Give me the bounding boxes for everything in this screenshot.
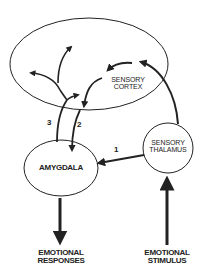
thalamus-label-line2: THALAMUS <box>145 146 191 153</box>
thalamus-label-line1: SENSORY <box>145 139 191 146</box>
pathway-1-number: 1 <box>114 146 118 154</box>
thalamus-to-cortex-arrow <box>141 62 178 124</box>
pathway-2-lower <box>72 110 80 150</box>
cortex-label-line2: CORTEX <box>106 83 150 90</box>
stimulus-label-line2: STIMULUS <box>136 257 198 265</box>
cortex-label: SENSORY CORTEX <box>106 76 150 91</box>
cortex-label-line1: SENSORY <box>106 76 150 83</box>
pathway-3-branch-left <box>31 73 60 90</box>
cortex-internal-arc-upper <box>108 63 132 70</box>
pathway-3-number: 3 <box>47 119 51 127</box>
pathway-3-branch-right <box>67 95 78 100</box>
responses-label-line2: RESPONSES <box>28 257 94 265</box>
pathway-3-branch-up <box>58 47 71 83</box>
pathway-1-arrow <box>99 155 144 163</box>
thalamus-label: SENSORY THALAMUS <box>145 139 191 154</box>
amygdala-label-text: AMYGDALA <box>39 163 83 172</box>
responses-label: EMOTIONAL RESPONSES <box>28 249 94 266</box>
pathway-2-number: 2 <box>77 121 81 129</box>
stimulus-label: EMOTIONAL STIMULUS <box>136 249 198 266</box>
pathway-3-connector <box>60 90 67 100</box>
amygdala-label: AMYGDALA <box>30 164 92 172</box>
pathway-2-arrow <box>84 78 102 106</box>
